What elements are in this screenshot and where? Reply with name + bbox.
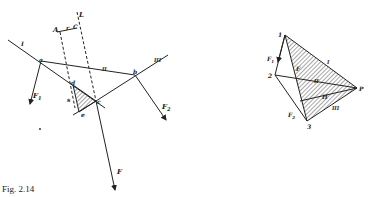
label-I: I — [326, 59, 330, 65]
label-F1: F1 — [266, 55, 274, 64]
figure-canvas: L A r C I II III a b c d e s F1 F2 F 1 2… — [0, 0, 368, 197]
force-F — [96, 101, 115, 190]
label-C: C — [73, 23, 78, 30]
force-F1-vector — [278, 35, 285, 62]
label-e: e — [81, 111, 85, 118]
label-b: b — [133, 68, 137, 75]
label-c: c — [97, 98, 101, 105]
label-H: H — [321, 93, 328, 100]
label-1: 1 — [278, 31, 282, 38]
force-F2 — [135, 75, 166, 120]
line-I — [8, 40, 105, 108]
label-III: III — [331, 105, 340, 111]
label-d: d — [71, 79, 76, 86]
figure-caption: Fig. 2.14 — [2, 184, 34, 194]
label-L: L — [78, 10, 84, 19]
left-labels: L A r C I II III a b c d e s F1 F2 F — [20, 10, 171, 176]
label-III: III — [153, 57, 162, 63]
label-F: F — [116, 167, 123, 176]
dot — [39, 128, 41, 130]
label-P: P — [358, 85, 364, 92]
label-2: 2 — [267, 72, 272, 79]
label-II: II — [101, 66, 107, 72]
label-F2: F2 — [161, 102, 171, 112]
label-F1: F1 — [32, 91, 41, 101]
label-a: a — [39, 56, 43, 63]
label-s: s — [67, 96, 71, 103]
label-F2: F2 — [287, 111, 295, 120]
label-II: II — [313, 78, 319, 84]
dashed-line-L — [77, 12, 96, 101]
label-3: 3 — [307, 123, 311, 130]
force-polygon-left — [8, 12, 168, 190]
label-I: I — [20, 40, 24, 47]
label-F: F — [295, 65, 301, 72]
label-A: A — [52, 25, 59, 34]
